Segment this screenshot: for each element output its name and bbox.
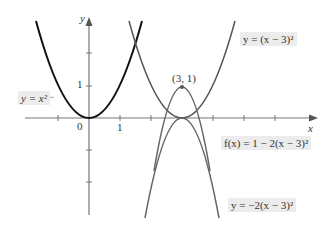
y-tick-1-label: 1 <box>77 78 83 90</box>
y-axis-label: y <box>80 12 85 24</box>
label-negative: y = −2(x − 3)² <box>228 198 296 212</box>
x-axis-arrow-icon <box>309 115 318 122</box>
curve-shifted <box>129 21 235 118</box>
x-tick-1-label: 1 <box>117 121 123 133</box>
curve-f <box>154 87 210 171</box>
curve-negative-stretched <box>145 118 219 218</box>
label-y-equals-x-squared: y = x² <box>18 91 50 105</box>
label-f: f(x) = 1 − 2(x − 3)² <box>221 136 311 150</box>
vertex-point <box>180 85 184 89</box>
y-axis-arrow-icon <box>86 17 93 26</box>
origin-label: 0 <box>77 120 83 132</box>
vertex-label: (3, 1) <box>172 72 196 84</box>
x-axis-label: x <box>308 122 313 134</box>
label-shifted: y = (x − 3)² <box>240 32 297 46</box>
